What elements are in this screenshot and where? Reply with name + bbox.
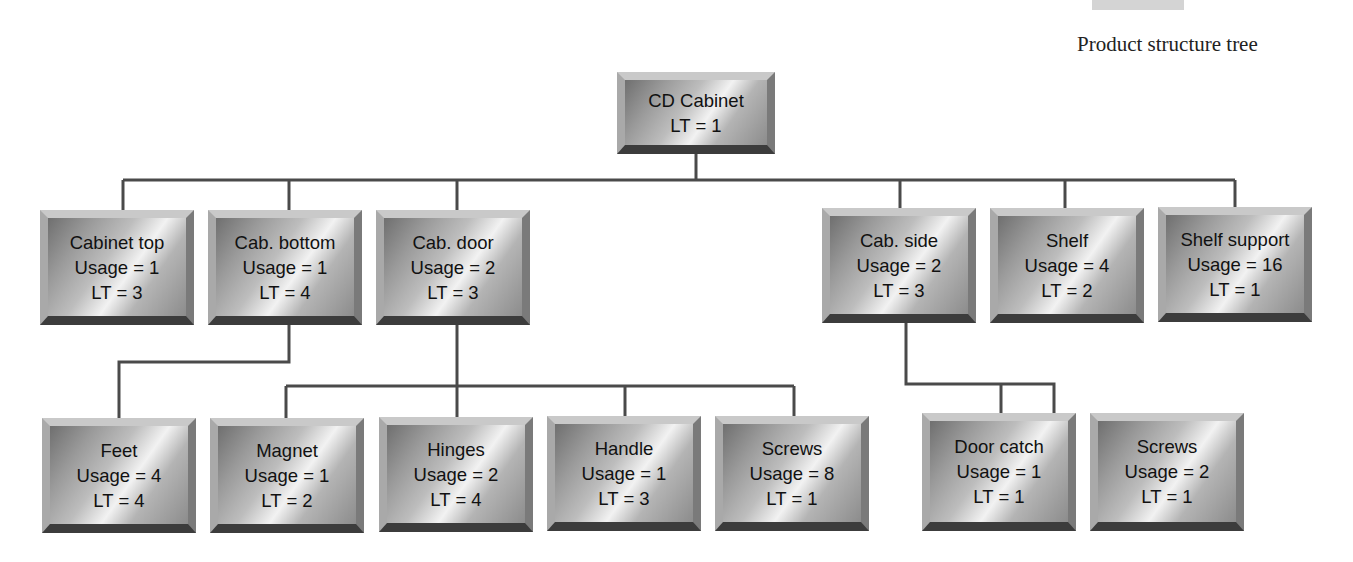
node-usage: Usage = 2: [411, 255, 496, 280]
node-lt: LT = 3: [91, 280, 142, 305]
node-magnet: Magnet Usage = 1 LT = 2: [210, 418, 364, 533]
node-screws-side: Screws Usage = 2 LT = 1: [1090, 413, 1244, 531]
node-screws-door: Screws Usage = 8 LT = 1: [715, 416, 869, 531]
node-door-catch: Door catch Usage = 1 LT = 1: [922, 413, 1076, 531]
node-shelf: Shelf Usage = 4 LT = 2: [990, 208, 1144, 323]
node-handle: Handle Usage = 1 LT = 3: [547, 416, 701, 531]
node-lt: LT = 1: [766, 486, 817, 511]
node-cab-bottom: Cab. bottom Usage = 1 LT = 4: [208, 210, 362, 325]
node-usage: Usage = 16: [1187, 252, 1282, 277]
node-name: Cab. door: [412, 230, 493, 255]
node-usage: Usage = 1: [75, 255, 160, 280]
node-lt: LT = 2: [261, 488, 312, 513]
node-lt: LT = 1: [670, 113, 721, 138]
node-name: Cabinet top: [70, 230, 165, 255]
node-lt: LT = 2: [1041, 278, 1092, 303]
connector-side-bus: [906, 323, 1054, 415]
node-name: Cab. side: [860, 228, 938, 253]
node-name: Shelf: [1046, 228, 1088, 253]
node-name: Handle: [595, 436, 654, 461]
node-lt: LT = 3: [873, 278, 924, 303]
node-name: Feet: [100, 438, 137, 463]
node-name: Door catch: [954, 434, 1043, 459]
node-cab-door: Cab. door Usage = 2 LT = 3: [376, 210, 530, 325]
node-lt: LT = 4: [430, 487, 481, 512]
node-name: Magnet: [256, 438, 318, 463]
connector-feet: [119, 325, 289, 420]
node-lt: LT = 4: [259, 280, 310, 305]
node-usage: Usage = 4: [77, 463, 162, 488]
node-shelf-support: Shelf support Usage = 16 LT = 1: [1158, 207, 1312, 322]
node-name: Hinges: [427, 437, 485, 462]
node-usage: Usage = 1: [243, 255, 328, 280]
node-usage: Usage = 1: [957, 459, 1042, 484]
node-name: CD Cabinet: [648, 88, 744, 113]
node-cd-cabinet: CD Cabinet LT = 1: [617, 72, 775, 154]
node-lt: LT = 4: [93, 488, 144, 513]
node-cabinet-top: Cabinet top Usage = 1 LT = 3: [40, 210, 194, 325]
node-usage: Usage = 2: [857, 253, 942, 278]
node-lt: LT = 1: [1141, 484, 1192, 509]
node-usage: Usage = 2: [1125, 459, 1210, 484]
node-usage: Usage = 1: [245, 463, 330, 488]
node-cab-side: Cab. side Usage = 2 LT = 3: [822, 208, 976, 323]
node-name: Screws: [762, 436, 823, 461]
node-lt: LT = 1: [1209, 277, 1260, 302]
node-usage: Usage = 8: [750, 461, 835, 486]
node-name: Cab. bottom: [235, 230, 336, 255]
node-lt: LT = 3: [427, 280, 478, 305]
node-name: Screws: [1137, 434, 1198, 459]
node-usage: Usage = 4: [1025, 253, 1110, 278]
node-hinges: Hinges Usage = 2 LT = 4: [379, 417, 533, 532]
node-feet: Feet Usage = 4 LT = 4: [42, 418, 196, 533]
node-lt: LT = 3: [598, 486, 649, 511]
node-lt: LT = 1: [973, 484, 1024, 509]
node-name: Shelf support: [1180, 227, 1289, 252]
node-usage: Usage = 1: [582, 461, 667, 486]
node-usage: Usage = 2: [414, 462, 499, 487]
